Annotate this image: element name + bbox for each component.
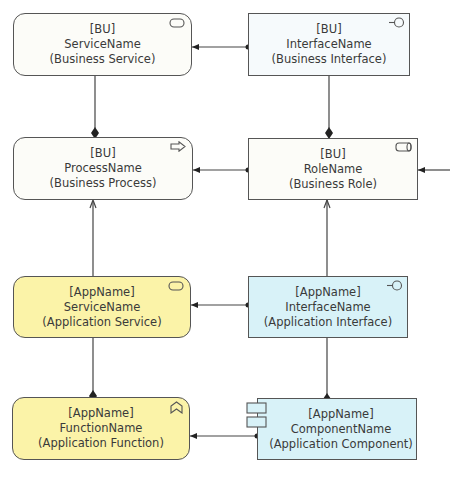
arrowhead-filled-icon xyxy=(191,302,198,308)
node-name: RoleName xyxy=(304,162,363,177)
component-icon xyxy=(246,402,268,430)
node-business-role[interactable]: [BU] RoleName (Business Role) xyxy=(248,138,418,200)
node-name: InterfaceName xyxy=(285,300,370,315)
interface-icon xyxy=(386,280,403,291)
arrowhead-filled-icon xyxy=(192,44,199,50)
node-type: (Business Service) xyxy=(50,52,156,67)
node-application-service[interactable]: [AppName] ServiceName (Application Servi… xyxy=(13,276,191,338)
node-application-function[interactable]: [AppName] FunctionName (Application Func… xyxy=(12,397,190,460)
node-type: (Business Interface) xyxy=(272,52,387,67)
node-type: (Business Role) xyxy=(289,177,377,192)
service-icon xyxy=(169,18,185,28)
node-type: (Business Process) xyxy=(50,176,157,191)
node-prefix: [AppName] xyxy=(308,407,373,422)
process-arrow-icon xyxy=(170,141,186,152)
node-business-process[interactable]: [BU] ProcessName (Business Process) xyxy=(13,137,193,200)
service-icon xyxy=(168,281,184,291)
node-name: ServiceName xyxy=(64,300,140,315)
node-business-service[interactable]: [BU] ServiceName (Business Service) xyxy=(13,13,192,76)
node-prefix: [BU] xyxy=(90,146,115,161)
node-type: (Application Interface) xyxy=(264,315,392,330)
node-prefix: [BU] xyxy=(320,147,345,162)
node-type: (Application Component) xyxy=(269,437,413,452)
node-name: InterfaceName xyxy=(286,37,371,52)
arrowhead-filled-icon xyxy=(190,433,197,439)
node-type: (Application Service) xyxy=(42,315,161,330)
role-icon xyxy=(395,142,413,152)
node-application-interface[interactable]: [AppName] InterfaceName (Application Int… xyxy=(248,276,408,338)
node-prefix: [BU] xyxy=(316,22,341,37)
node-prefix: [AppName] xyxy=(295,285,360,300)
interface-icon xyxy=(388,17,405,28)
node-application-component[interactable]: [AppName] ComponentName (Application Com… xyxy=(257,398,417,460)
arrowhead-filled-icon xyxy=(418,167,425,173)
node-name: ServiceName xyxy=(64,37,140,52)
node-business-interface[interactable]: [BU] InterfaceName (Business Interface) xyxy=(248,13,410,76)
node-prefix: [BU] xyxy=(90,22,115,37)
node-prefix: [AppName] xyxy=(69,285,134,300)
function-icon xyxy=(170,401,183,414)
node-name: ProcessName xyxy=(64,161,142,176)
node-name: FunctionName xyxy=(60,421,143,436)
arrowhead-filled-icon xyxy=(193,167,200,173)
node-prefix: [AppName] xyxy=(68,406,133,421)
node-name: ComponentName xyxy=(291,422,392,437)
node-type: (Application Function) xyxy=(38,436,164,451)
